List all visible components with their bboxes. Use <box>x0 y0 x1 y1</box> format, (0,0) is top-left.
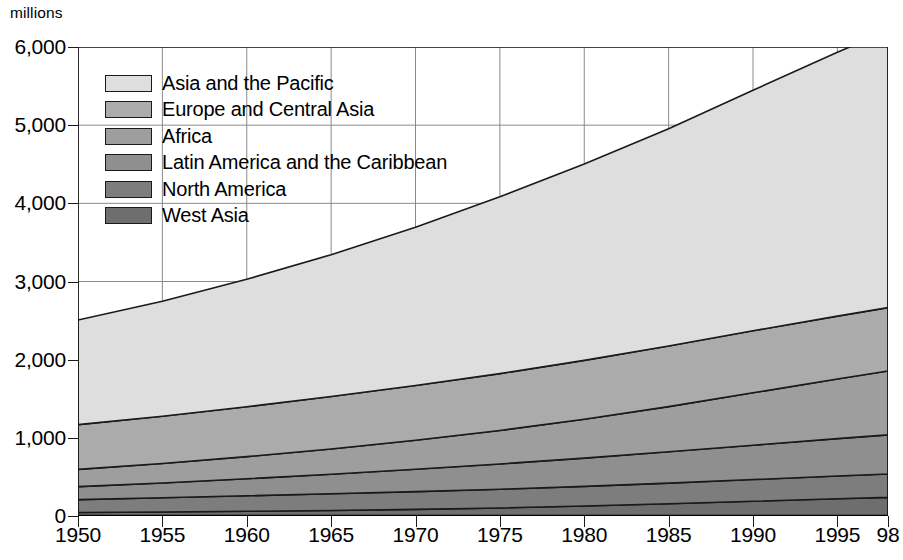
y-axis-tick-label: 1,000 <box>0 426 66 450</box>
y-axis-tick-label: 3,000 <box>0 270 66 294</box>
legend-label: Asia and the Pacific <box>162 72 334 95</box>
legend-item: Asia and the Pacific <box>105 70 447 97</box>
legend-label: Africa <box>162 125 212 148</box>
x-axis-tick-mark <box>162 516 163 527</box>
y-axis-title: millions <box>10 4 62 22</box>
y-axis-tick-mark <box>68 47 78 48</box>
x-axis-tick-mark <box>331 516 332 527</box>
legend-item: Africa <box>105 123 447 150</box>
legend-swatch <box>105 128 152 145</box>
legend-item: Europe and Central Asia <box>105 97 447 124</box>
chart-legend: Asia and the PacificEurope and Central A… <box>105 70 447 229</box>
x-axis-tick-mark <box>753 516 754 527</box>
legend-swatch <box>105 181 152 198</box>
x-axis-tick-mark <box>416 516 417 527</box>
x-axis-tick-mark <box>500 516 501 527</box>
y-axis-tick-label: 6,000 <box>0 35 66 59</box>
x-axis-tick-mark <box>247 516 248 527</box>
legend-swatch <box>105 75 152 92</box>
y-axis-tick-mark <box>68 203 78 204</box>
legend-label: West Asia <box>162 204 249 227</box>
stacked-area-chart: millions 01,0002,0003,0004,0005,0006,000… <box>0 0 903 560</box>
y-axis-tick-mark <box>68 438 78 439</box>
legend-swatch <box>105 154 152 171</box>
legend-label: North America <box>162 178 286 201</box>
x-axis-tick-mark <box>888 516 889 527</box>
legend-swatch <box>105 101 152 118</box>
x-axis-tick-mark <box>837 516 838 527</box>
legend-item: West Asia <box>105 203 447 230</box>
legend-item: North America <box>105 176 447 203</box>
legend-swatch <box>105 207 152 224</box>
y-axis-tick-mark <box>68 516 78 517</box>
x-axis-tick-mark <box>78 516 79 527</box>
y-axis-tick-mark <box>68 360 78 361</box>
legend-item: Latin America and the Caribbean <box>105 150 447 177</box>
x-axis-tick-mark <box>584 516 585 527</box>
y-axis-tick-label: 4,000 <box>0 191 66 215</box>
legend-label: Europe and Central Asia <box>162 98 374 121</box>
y-axis-tick-label: 5,000 <box>0 113 66 137</box>
x-axis-tick-mark <box>669 516 670 527</box>
y-axis-tick-mark <box>68 282 78 283</box>
y-axis-tick-mark <box>68 125 78 126</box>
y-axis-tick-label: 2,000 <box>0 348 66 372</box>
legend-label: Latin America and the Caribbean <box>162 151 447 174</box>
